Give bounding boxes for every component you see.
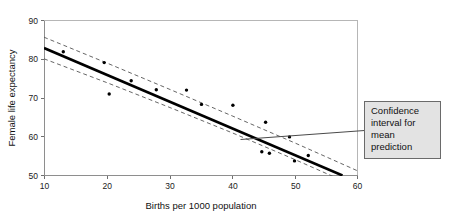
confidence-interval-callout: Confidence interval for mean prediction bbox=[365, 102, 441, 159]
y-axis-ticks: 90 80 70 60 50 bbox=[29, 16, 44, 181]
x-axis-ticks: 10 20 30 40 50 60 bbox=[40, 176, 363, 192]
data-point bbox=[130, 79, 133, 82]
callout-line-3: mean bbox=[371, 129, 395, 140]
callout-line-1: Confidence bbox=[371, 105, 419, 116]
data-point bbox=[264, 121, 267, 124]
regression-fit-line bbox=[44, 48, 343, 176]
data-point bbox=[200, 103, 203, 106]
y-tick-label-90: 90 bbox=[29, 16, 39, 26]
x-tick-label-20: 20 bbox=[103, 181, 113, 191]
y-tick-label-50: 50 bbox=[29, 171, 39, 181]
y-tick-label-80: 80 bbox=[29, 54, 39, 64]
callout-line-2: interval for bbox=[371, 117, 415, 128]
x-axis-title: Births per 1000 population bbox=[146, 200, 257, 211]
confidence-band-lower bbox=[44, 59, 358, 188]
scatter-plot-svg: 90 80 70 60 50 10 20 30 40 50 60 Births … bbox=[0, 0, 449, 221]
y-tick-label-70: 70 bbox=[29, 93, 39, 103]
x-tick-label-30: 30 bbox=[165, 181, 175, 191]
data-point bbox=[260, 150, 263, 153]
x-tick-label-10: 10 bbox=[40, 181, 50, 191]
data-point bbox=[268, 152, 271, 155]
data-point bbox=[293, 159, 296, 162]
data-point bbox=[307, 154, 310, 157]
callout-line-4: prediction bbox=[371, 141, 412, 152]
x-tick-label-60: 60 bbox=[353, 181, 363, 191]
callout-leader-line bbox=[241, 131, 365, 140]
plot-frame bbox=[44, 21, 358, 176]
data-point bbox=[185, 88, 188, 91]
data-point bbox=[103, 61, 106, 64]
data-point bbox=[62, 50, 65, 53]
y-axis-title: Female life expectancy bbox=[6, 49, 17, 146]
data-point bbox=[108, 92, 111, 95]
chart-figure: 90 80 70 60 50 10 20 30 40 50 60 Births … bbox=[0, 0, 449, 221]
data-point bbox=[231, 104, 234, 107]
confidence-band-group bbox=[44, 37, 358, 187]
x-tick-label-50: 50 bbox=[291, 181, 301, 191]
y-tick-label-60: 60 bbox=[29, 132, 39, 142]
data-point bbox=[155, 88, 158, 91]
x-tick-label-40: 40 bbox=[228, 181, 238, 191]
